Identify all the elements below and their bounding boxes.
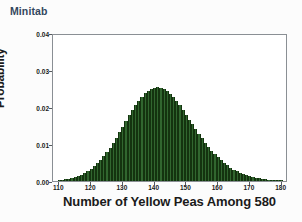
bar <box>280 180 283 181</box>
y-tick-label: 0.01 <box>36 142 49 149</box>
y-axis-label: Probability <box>0 48 7 108</box>
x-tick-mark <box>217 182 218 185</box>
plot-area <box>52 34 287 182</box>
x-tick-mark <box>90 182 91 185</box>
x-axis-label: Number of Yellow Peas Among 580 <box>52 194 287 209</box>
x-tick-label: 160 <box>212 184 223 191</box>
x-tick-mark <box>122 182 123 185</box>
y-axis: 0.000.010.020.030.04 <box>20 34 49 182</box>
x-tick-label: 180 <box>275 184 286 191</box>
x-tick-label: 140 <box>148 184 159 191</box>
x-tick-mark <box>281 182 282 185</box>
minitab-chart-screenshot: Minitab 0.000.010.020.030.04 11012013014… <box>0 0 302 222</box>
x-tick-mark <box>154 182 155 185</box>
x-tick-label: 170 <box>243 184 254 191</box>
x-tick-label: 120 <box>85 184 96 191</box>
y-tick-label: 0.00 <box>36 179 49 186</box>
y-tick-label: 0.03 <box>36 68 49 75</box>
y-tick-label: 0.02 <box>36 105 49 112</box>
bars-container <box>53 35 286 181</box>
minitab-caption: Minitab <box>10 4 47 18</box>
x-tick-mark <box>249 182 250 185</box>
y-tick-label: 0.04 <box>36 31 49 38</box>
x-axis: 110120130140150160170180 <box>52 182 287 194</box>
x-tick-mark <box>58 182 59 185</box>
x-tick-label: 130 <box>116 184 127 191</box>
x-tick-label: 150 <box>180 184 191 191</box>
x-tick-mark <box>185 182 186 185</box>
x-tick-label: 110 <box>53 184 64 191</box>
